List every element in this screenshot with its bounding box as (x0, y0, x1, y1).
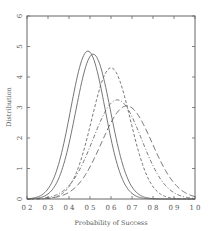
y-tick-label: 2 (16, 136, 24, 140)
y-tick-label: 0 (16, 197, 24, 201)
plot-frame (27, 16, 195, 199)
x-tick-label: 0 8 (147, 204, 158, 212)
y-tick-label: 5 (16, 44, 24, 48)
axis-ticks: 0 20 30 40 50 60 70 80 91 00123456 (16, 13, 201, 212)
distribution-chart: 0 20 30 40 50 60 70 80 91 00123456 Proba… (0, 0, 212, 231)
y-axis-label: Distribution (5, 87, 13, 127)
x-tick-label: 0 4 (63, 204, 75, 212)
y-tick-label: 4 (16, 74, 24, 79)
x-tick-label: 0 6 (105, 204, 117, 212)
x-tick-label: 0 5 (84, 204, 95, 212)
x-axis-label: Probability of Success (74, 219, 147, 227)
curve-dashed-1 (27, 68, 195, 199)
x-tick-label: 0 3 (42, 204, 53, 212)
x-tick-label: 0 9 (168, 204, 179, 212)
curve-solid-1 (27, 51, 195, 199)
x-tick-label: 0 7 (126, 204, 137, 212)
y-tick-label: 6 (16, 13, 24, 18)
y-tick-label: 3 (16, 105, 24, 109)
chart-curves (27, 51, 195, 199)
curve-longdash-1 (27, 106, 195, 199)
y-tick-label: 1 (16, 166, 24, 170)
x-tick-label: 1 0 (189, 204, 200, 212)
x-tick-label: 0 2 (21, 204, 32, 212)
